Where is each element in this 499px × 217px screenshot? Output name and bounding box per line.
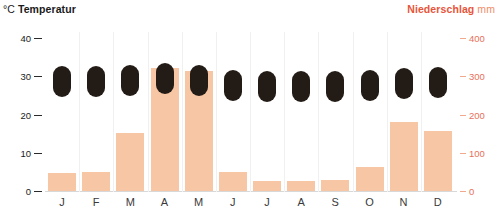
month-label: N <box>387 196 421 208</box>
month-column[interactable] <box>353 32 387 192</box>
right-tick-100-label: 100 <box>469 148 485 159</box>
month-label: J <box>45 196 79 208</box>
temperature-marker[interactable] <box>156 63 174 94</box>
climate-chart: °C Temperatur Niederschlag mm 40 30 20 1… <box>0 0 499 217</box>
precipitation-bar[interactable] <box>356 167 384 191</box>
month-column[interactable] <box>79 32 113 192</box>
temperature-axis-title: °C Temperatur <box>3 3 76 16</box>
month-label: A <box>284 196 318 208</box>
precipitation-bar[interactable] <box>48 173 76 191</box>
precipitation-bar[interactable] <box>219 172 247 191</box>
month-label: J <box>250 196 284 208</box>
month-column[interactable] <box>182 32 216 192</box>
temperature-title-label: Temperatur <box>18 3 76 15</box>
column-separator <box>284 32 285 192</box>
column-separator <box>421 32 422 192</box>
month-column[interactable] <box>387 32 421 192</box>
temperature-marker[interactable] <box>224 70 242 101</box>
right-tick-400-label: 400 <box>469 33 485 44</box>
tick-dash-icon <box>460 76 466 77</box>
month-label: D <box>421 196 455 208</box>
right-tick-300-label: 300 <box>469 71 485 82</box>
left-axis-tick-0: 0 <box>0 186 42 197</box>
temperature-marker[interactable] <box>326 71 344 102</box>
precipitation-bar[interactable] <box>390 122 418 191</box>
month-label: M <box>113 196 147 208</box>
temperature-marker[interactable] <box>361 70 379 101</box>
left-tick-30-label: 30 <box>20 71 31 82</box>
tick-dash-icon <box>34 153 42 154</box>
month-label: F <box>79 196 113 208</box>
left-axis-tick-40: 40 <box>0 33 42 44</box>
month-column[interactable] <box>45 32 79 192</box>
column-separator <box>250 32 251 192</box>
right-axis-tick-100: 100 <box>460 148 498 159</box>
column-separator <box>216 32 217 192</box>
month-label: A <box>148 196 182 208</box>
left-axis-tick-20: 20 <box>0 110 42 121</box>
left-tick-10-label: 10 <box>20 148 31 159</box>
precipitation-title-label: Niederschlag <box>407 3 474 15</box>
tick-dash-icon <box>460 115 466 116</box>
temperature-marker[interactable] <box>190 65 208 96</box>
temperature-unit-label: °C <box>3 3 15 15</box>
precipitation-bar[interactable] <box>82 172 110 191</box>
tick-dash-icon <box>34 191 42 192</box>
month-column[interactable] <box>250 32 284 192</box>
tick-dash-icon <box>34 76 42 77</box>
month-column[interactable] <box>148 32 182 192</box>
month-column[interactable] <box>421 32 455 192</box>
column-separator <box>318 32 319 192</box>
precipitation-bar[interactable] <box>287 181 315 191</box>
right-tick-0-label: 0 <box>469 186 474 197</box>
left-tick-20-label: 20 <box>20 110 31 121</box>
left-axis-tick-10: 10 <box>0 148 42 159</box>
precipitation-bar[interactable] <box>424 131 452 191</box>
month-label: O <box>353 196 387 208</box>
precipitation-bar[interactable] <box>253 181 281 191</box>
tick-dash-icon <box>34 38 42 39</box>
right-axis-tick-0: 0 <box>460 186 498 197</box>
left-tick-40-label: 40 <box>20 33 31 44</box>
temperature-marker[interactable] <box>87 66 105 97</box>
month-column[interactable] <box>113 32 147 192</box>
temperature-marker[interactable] <box>53 66 71 97</box>
month-column[interactable] <box>284 32 318 192</box>
plot-area <box>45 32 455 192</box>
temperature-marker[interactable] <box>121 65 139 96</box>
precipitation-bar[interactable] <box>321 180 349 191</box>
column-separator <box>113 32 114 192</box>
month-label: M <box>182 196 216 208</box>
month-label: S <box>318 196 352 208</box>
right-axis-tick-300: 300 <box>460 71 498 82</box>
column-separator <box>148 32 149 192</box>
month-label: J <box>216 196 250 208</box>
tick-dash-icon <box>460 191 466 192</box>
tick-dash-icon <box>460 38 466 39</box>
precipitation-bar[interactable] <box>116 133 144 191</box>
right-axis-tick-200: 200 <box>460 110 498 121</box>
tick-dash-icon <box>460 153 466 154</box>
column-separator <box>79 32 80 192</box>
column-separator <box>387 32 388 192</box>
precipitation-unit-label: mm <box>477 3 495 15</box>
left-axis-tick-30: 30 <box>0 71 42 82</box>
precipitation-axis-title: Niederschlag mm <box>407 3 495 16</box>
temperature-marker[interactable] <box>258 71 276 102</box>
temperature-marker[interactable] <box>429 67 447 98</box>
month-column[interactable] <box>216 32 250 192</box>
column-separator <box>353 32 354 192</box>
right-tick-200-label: 200 <box>469 110 485 121</box>
column-separator <box>182 32 183 192</box>
right-axis-tick-400: 400 <box>460 33 498 44</box>
temperature-marker[interactable] <box>395 68 413 99</box>
left-tick-0-label: 0 <box>26 186 31 197</box>
temperature-marker[interactable] <box>292 71 310 102</box>
tick-dash-icon <box>34 115 42 116</box>
month-column[interactable] <box>318 32 352 192</box>
